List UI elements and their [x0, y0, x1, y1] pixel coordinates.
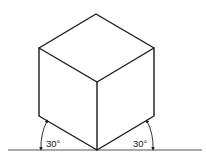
right-angle-arc — [147, 121, 153, 149]
isometric-cube-diagram: 30° 30° — [0, 0, 206, 159]
right-angle-label: 30° — [133, 138, 148, 149]
cube-top-face — [39, 14, 154, 82]
cube-left-face — [39, 48, 97, 150]
cube-right-face — [97, 48, 154, 150]
left-angle-label: 30° — [46, 138, 61, 149]
